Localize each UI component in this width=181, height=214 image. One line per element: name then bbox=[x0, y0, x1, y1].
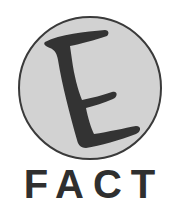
fact-logo: FACT bbox=[0, 0, 181, 214]
wordmark-text: FACT bbox=[18, 164, 170, 204]
